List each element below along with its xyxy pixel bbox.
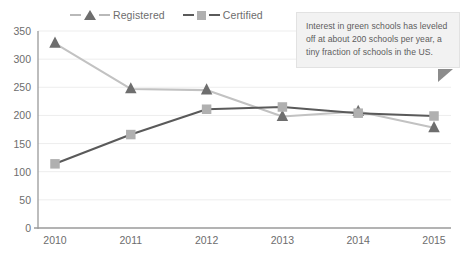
x-axis-tick-label: 2013: [271, 234, 295, 246]
data-point-marker: [201, 83, 213, 94]
y-axis-tick-label: 0: [25, 222, 31, 234]
callout-text: Interest in green schools has leveled of…: [306, 20, 451, 59]
callout-tail-icon: [438, 69, 453, 82]
x-axis-tick-label: 2014: [347, 234, 371, 246]
y-axis-tick-label: 50: [19, 194, 31, 206]
x-axis-tick-label: 2012: [195, 234, 219, 246]
x-axis-tick-label: 2011: [120, 234, 143, 246]
y-axis-tick-label: 200: [13, 109, 31, 121]
data-point-marker: [50, 159, 60, 169]
data-point-marker: [49, 37, 61, 48]
chart-canvas: Registered Certified 0501001502002503003…: [0, 0, 468, 256]
x-axis-tick-label: 2010: [43, 234, 67, 246]
data-point-marker: [278, 102, 288, 112]
x-axis-tick-label: 2015: [422, 234, 446, 246]
y-axis-tick-label: 250: [13, 81, 31, 93]
y-axis-tick-label: 300: [13, 53, 31, 65]
y-axis-tick-label: 150: [13, 138, 31, 150]
data-point-marker: [353, 108, 363, 118]
y-axis-tick-label: 350: [13, 25, 31, 37]
data-point-marker: [202, 104, 212, 114]
y-axis-tick-label: 100: [13, 166, 31, 178]
data-point-marker: [429, 111, 439, 121]
data-point-marker: [126, 130, 136, 140]
callout-box: Interest in green schools has leveled of…: [296, 12, 460, 68]
